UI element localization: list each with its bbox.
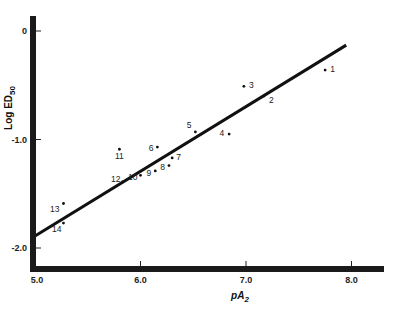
point-marker [228,133,231,136]
point-marker [168,164,171,167]
point-marker [118,148,121,151]
plot-area: 1234567891011121314 [35,45,346,236]
point-marker [242,85,245,88]
point-marker [156,146,159,149]
x-axis-line [30,266,384,272]
point-marker [194,131,197,134]
point-label: 14 [52,224,62,234]
y-axis-line [30,16,36,272]
point-marker [263,95,266,98]
point-marker [139,174,142,177]
data-point: 2 [263,95,274,105]
point-marker [62,202,65,205]
y-tick-label: -2.0 [11,243,27,253]
point-label: 11 [115,151,124,161]
point-label: 1 [330,64,335,74]
point-marker [154,170,157,173]
data-point: 9 [147,168,157,178]
data-point: 12 [111,174,124,184]
data-point: 11 [115,148,124,161]
y-tick-label: -1.0 [11,135,27,145]
point-label: 2 [269,95,274,105]
data-point: 1 [324,64,335,74]
point-label: 8 [160,162,165,172]
y-axis-title: Log ED50 [3,86,17,130]
point-label: 10 [128,172,138,182]
point-label: 12 [111,174,121,184]
point-label: 5 [187,120,192,130]
data-point: 5 [187,120,197,133]
data-point: 8 [160,162,170,172]
point-label: 4 [219,128,224,138]
data-point: 4 [219,128,230,138]
x-axis-title: pA2 [230,290,249,304]
data-point: 3 [242,80,253,90]
point-marker [324,69,327,72]
point-label: 7 [176,152,181,162]
x-tick-label: 5.0 [31,275,44,285]
point-label: 13 [50,204,60,214]
x-tick-label: 7.0 [240,275,253,285]
x-tick-label: 6.0 [134,275,147,285]
regression-line [35,45,346,236]
point-marker [171,157,174,160]
y-tick-label: 0 [22,26,27,36]
point-label: 3 [249,80,254,90]
data-point: 14 [52,222,65,234]
x-tick-label: 8.0 [345,275,358,285]
data-point: 13 [50,202,65,213]
point-label: 6 [149,143,154,153]
data-point: 6 [149,143,159,153]
point-marker [121,180,124,183]
point-marker [62,222,65,225]
data-point: 10 [128,172,142,182]
point-label: 9 [147,168,152,178]
scatter-chart: 1234567891011121314 0-1.0-2.05.06.07.08.… [0,0,397,317]
